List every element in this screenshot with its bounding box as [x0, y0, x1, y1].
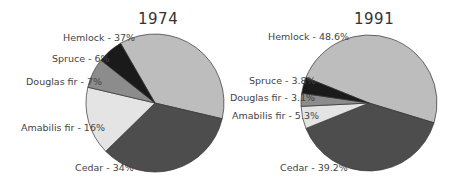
label-amabilis-fir-1991: Amabilis fir - 5.3% [232, 110, 319, 121]
label-amabilis-fir-1974: Amabilis fir - 16% [21, 122, 105, 133]
pie-chart-1974: 1974 Hemlock - 37% Spruce - 6% Douglas f… [0, 0, 230, 184]
pie-chart-1991: 1991 Hemlock - 48.6% Spruce - 3.8% Dougl… [230, 0, 460, 184]
label-cedar-1991: Cedar - 39.2% [280, 162, 348, 173]
label-douglas-fir-1974: Douglas fir - 7% [26, 76, 102, 87]
label-spruce-1991: Spruce - 3.8% [249, 75, 316, 86]
label-douglas-fir-1991: Douglas fir - 3.1% [230, 92, 315, 103]
pie-1974-svg [0, 0, 230, 184]
label-cedar-1974: Cedar - 34% [75, 162, 134, 173]
label-hemlock-1974: Hemlock - 37% [63, 32, 135, 43]
label-spruce-1974: Spruce - 6% [52, 53, 110, 64]
label-hemlock-1991: Hemlock - 48.6% [268, 31, 349, 42]
